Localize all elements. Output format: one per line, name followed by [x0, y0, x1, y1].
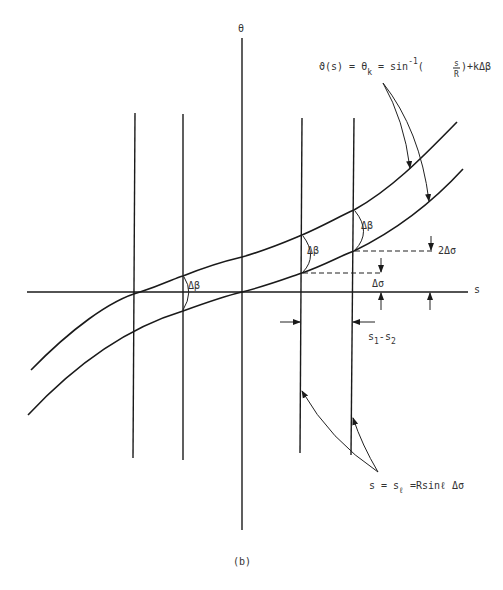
- pointer-to-line-3: [302, 391, 378, 472]
- two-delta-sigma-label: 2Δσ: [438, 245, 456, 256]
- pointer-to-upper-curve: [383, 83, 410, 168]
- bottom-equation: s = sℓ =Rsinℓ Δσ: [369, 480, 464, 495]
- delta-sigma-label: Δσ: [372, 278, 384, 289]
- top-equation-tail: )+kΔβ: [461, 61, 491, 72]
- frac-numerator: s: [454, 59, 459, 68]
- diagram-canvas: Δβ Δβ Δβ Δσ 2Δσ s1-s2 θ s ϑ(s) = θk = si…: [0, 0, 503, 590]
- frac-denominator: R: [454, 70, 459, 79]
- delta-beta-label-2: Δβ: [307, 245, 319, 256]
- vertical-line-1: [133, 113, 135, 458]
- top-equation: ϑ(s) = θk = sin-1(: [319, 57, 424, 77]
- pointer-to-line-4: [353, 418, 378, 472]
- pointer-to-lower-curve: [383, 83, 429, 201]
- vertical-line-4: [351, 118, 354, 455]
- delta-beta-label-3: Δβ: [361, 220, 373, 231]
- vertical-line-3: [300, 118, 302, 453]
- s1-s2-label: s1-s2: [368, 331, 396, 346]
- theta-axis-label: θ: [238, 23, 244, 34]
- delta-beta-label-1: Δβ: [188, 280, 200, 291]
- s-axis-label: s: [474, 284, 480, 295]
- figure-caption: (b): [233, 556, 251, 567]
- upper-curve: [31, 122, 457, 370]
